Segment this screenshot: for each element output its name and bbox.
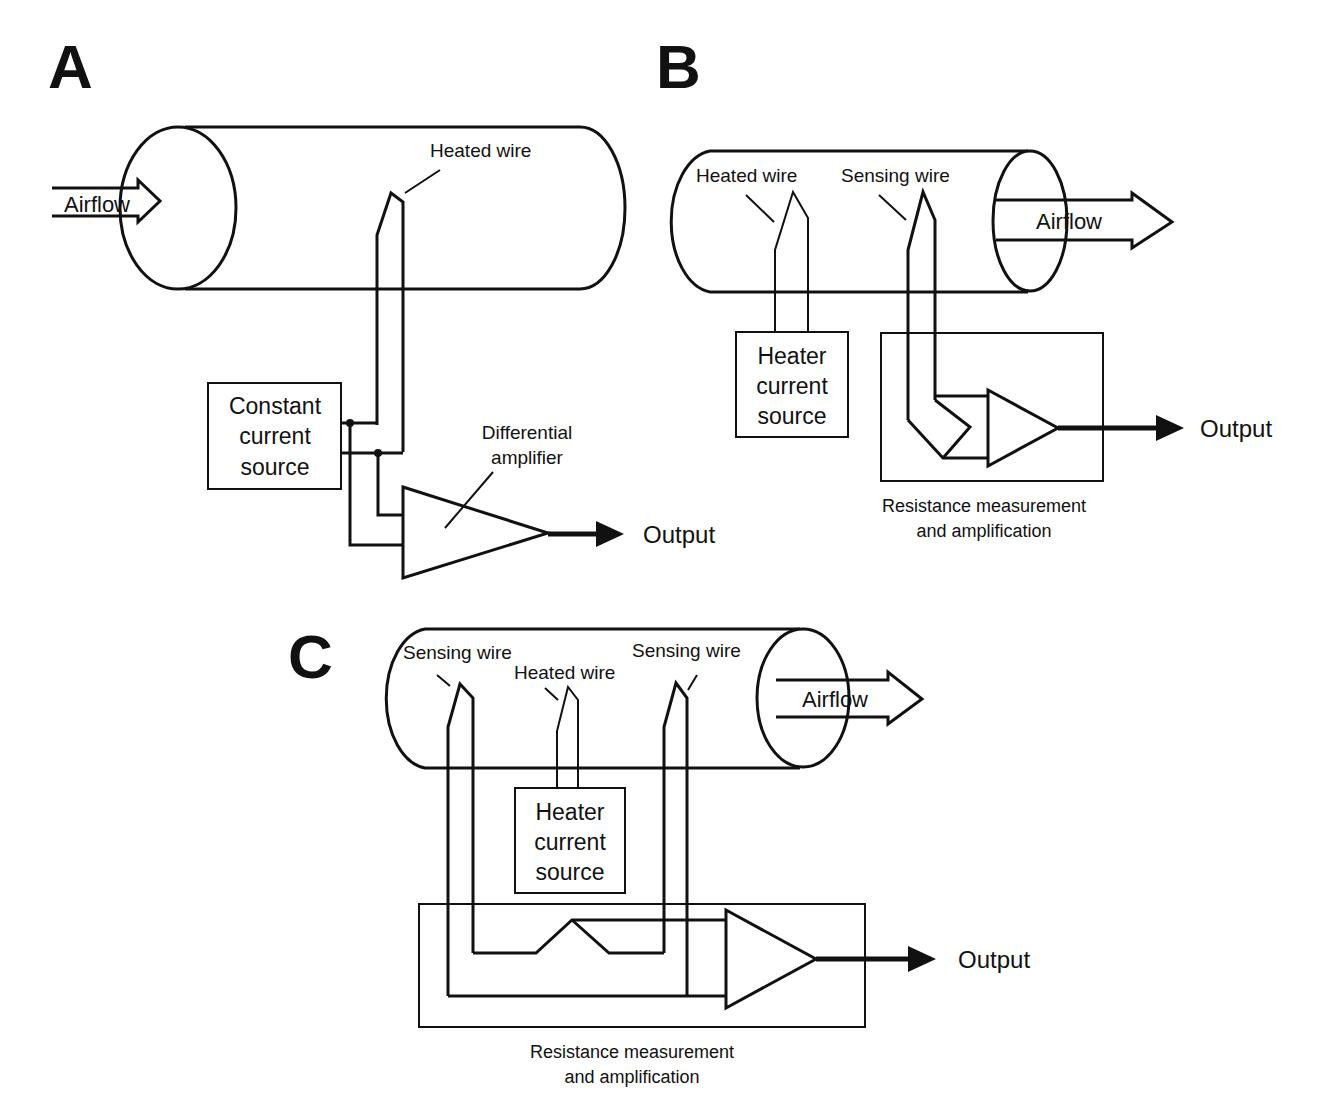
svg-text:Sensing wire: Sensing wire	[632, 640, 741, 661]
svg-text:Differential: Differential	[482, 422, 572, 443]
panel-b-airflow-label: Airflow	[1036, 209, 1102, 234]
panel-b-resistance-measurement-box: Resistance measurement and amplification	[881, 333, 1103, 541]
panel-a-constant-current-source: Constant current source	[208, 383, 341, 489]
svg-text:and amplification: and amplification	[564, 1067, 699, 1087]
panel-a: A Airflow Heated wire Constant current s…	[48, 32, 715, 578]
panel-c-airflow-label: Airflow	[802, 687, 868, 712]
svg-text:current: current	[239, 423, 311, 449]
panel-c-label: C	[288, 622, 333, 691]
panel-a-label: A	[48, 32, 93, 101]
svg-text:Resistance measurement: Resistance measurement	[882, 496, 1086, 516]
panel-b-output: Output	[1058, 415, 1272, 442]
panel-c: C Airflow Sensing wire Heated wire Sen	[288, 622, 1030, 1087]
panel-b: B Airflow Heated wire Sensing wire Heate…	[656, 32, 1272, 541]
panel-c-heater-current-source: Heater current source	[515, 788, 625, 893]
svg-text:Heated wire: Heated wire	[514, 662, 615, 683]
panel-a-heated-wire-label: Heated wire	[430, 140, 531, 161]
panel-b-heater-current-source: Heater current source	[736, 332, 848, 437]
panel-a-output: Output	[548, 521, 715, 548]
panel-b-label: B	[656, 32, 701, 101]
panel-c-resistance-measurement-box: Resistance measurement and amplification	[419, 904, 865, 1087]
panel-c-output-label: Output	[958, 946, 1030, 973]
svg-text:Heater: Heater	[535, 799, 604, 825]
svg-text:and amplification: and amplification	[916, 521, 1051, 541]
panel-b-output-label: Output	[1200, 415, 1272, 442]
panel-a-wiring	[341, 419, 403, 545]
svg-text:Sensing wire: Sensing wire	[841, 165, 950, 186]
panel-c-output: Output	[816, 946, 1030, 973]
svg-text:current: current	[534, 829, 606, 855]
svg-text:source: source	[535, 859, 604, 885]
panel-a-differential-amplifier: Differential amplifier	[403, 422, 572, 578]
panel-a-output-label: Output	[643, 521, 715, 548]
svg-text:Constant: Constant	[229, 393, 322, 419]
panel-a-tube	[120, 127, 625, 289]
hot-wire-sensor-diagram: A Airflow Heated wire Constant current s…	[0, 0, 1328, 1119]
svg-text:source: source	[240, 454, 309, 480]
svg-text:amplifier: amplifier	[491, 447, 563, 468]
svg-text:Heated wire: Heated wire	[696, 165, 797, 186]
svg-text:current: current	[756, 373, 828, 399]
panel-a-airflow-label: Airflow	[64, 192, 130, 217]
svg-text:source: source	[757, 403, 826, 429]
svg-text:Sensing wire: Sensing wire	[403, 642, 512, 663]
svg-text:Resistance measurement: Resistance measurement	[530, 1042, 734, 1062]
svg-text:Heater: Heater	[757, 343, 826, 369]
